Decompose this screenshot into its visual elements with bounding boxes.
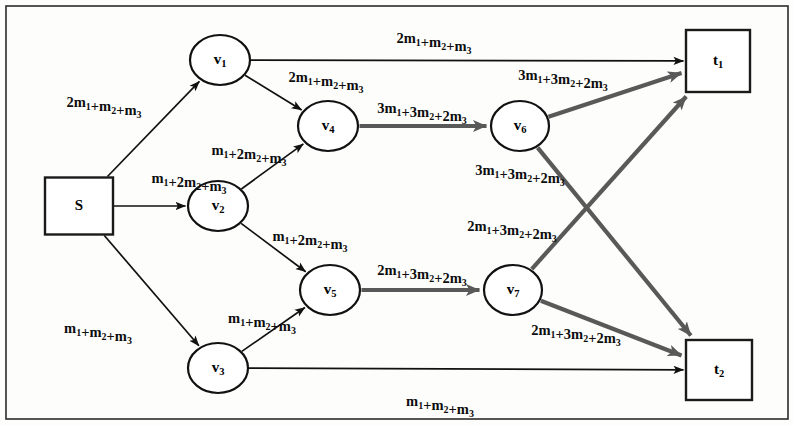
diagram-canvas: Sv1v2v3v4v5v6v7t1t2 2m1+m2+m3m1+2m2+m3m1… (0, 0, 794, 425)
edge-labels-layer: 2m1+m2+m3m1+2m2+m3m1+m2+m32m1+m2+m32m1+m… (64, 30, 621, 419)
node-S[interactable]: S (45, 178, 113, 235)
edge-label-S-v3: m1+m2+m3 (64, 320, 132, 346)
node-t1[interactable]: t1 (686, 30, 750, 92)
node-v6[interactable]: v6 (491, 101, 549, 151)
node-t2[interactable]: t2 (686, 340, 752, 400)
edge-label-v3-v5: m1+m2+m3 (228, 310, 296, 336)
network-flow-diagram: Sv1v2v3v4v5v6v7t1t2 2m1+m2+m3m1+2m2+m3m1… (0, 0, 794, 425)
node-v5[interactable]: v5 (300, 265, 360, 315)
edge-label-S-v2: m1+2m2+m3 (151, 170, 226, 196)
edge-S-v1 (107, 81, 199, 176)
edge-label-v7-t1: 2m1+3m2+2m3 (467, 218, 557, 244)
edge-label-v3-t2: m1+m2+m3 (406, 393, 474, 419)
node-label-S: S (75, 197, 83, 213)
edge-label-v2-v5: m1+2m2+m3 (272, 228, 347, 254)
node-v1[interactable]: v1 (190, 35, 250, 85)
edge-label-v4-v6: 3m1+3m2+2m3 (377, 100, 467, 126)
edge-label-v1-t1: 2m1+m2+m3 (396, 30, 471, 56)
figure-frame (6, 6, 788, 419)
node-v7[interactable]: v7 (484, 265, 542, 315)
node-v3[interactable]: v3 (188, 343, 248, 393)
edge-v1-t1 (251, 60, 684, 61)
edge-label-v6-t1: 3m1+3m2+2m3 (518, 67, 608, 93)
edge-label-v5-v7: 2m1+3m2+2m3 (377, 262, 467, 288)
edge-label-S-v1: 2m1+m2+m3 (66, 94, 141, 120)
node-v4[interactable]: v4 (298, 101, 358, 151)
edge-label-v2-v4: m1+2m2+m3 (211, 142, 286, 168)
edge-label-v1-v4: 2m1+m2+m3 (288, 69, 363, 95)
edge-v3-t2 (249, 368, 684, 370)
